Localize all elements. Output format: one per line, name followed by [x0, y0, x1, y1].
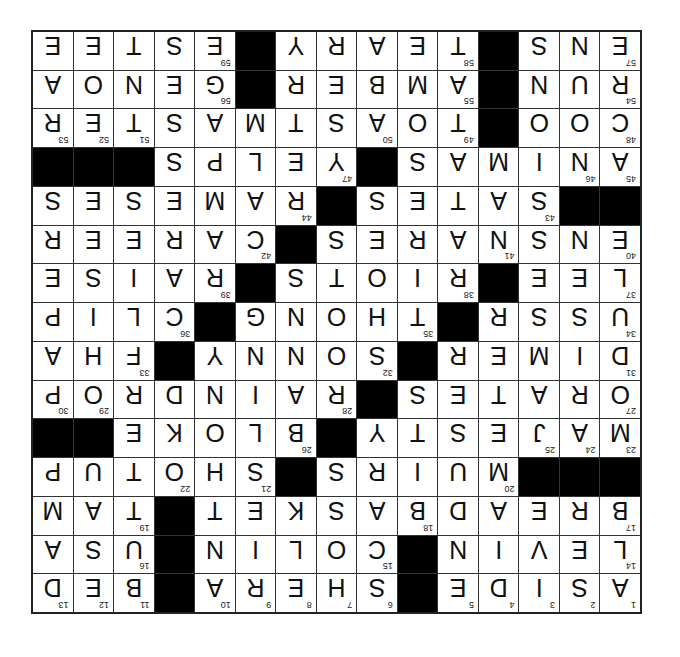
grid-cell[interactable]: I [398, 458, 438, 496]
grid-cell[interactable]: T [317, 264, 357, 302]
grid-cell[interactable]: E [74, 187, 114, 225]
grid-cell[interactable]: 51T [114, 109, 154, 147]
grid-cell[interactable]: M [519, 342, 559, 380]
grid-cell[interactable]: T [479, 381, 519, 419]
grid-cell[interactable]: L [276, 536, 316, 574]
grid-cell[interactable]: N [236, 342, 276, 380]
grid-cell[interactable]: N [195, 381, 235, 419]
grid-cell[interactable]: 31D [600, 342, 640, 380]
grid-cell[interactable]: 46N [560, 148, 600, 186]
grid-cell[interactable]: R [438, 342, 478, 380]
grid-cell[interactable]: 55A [438, 71, 478, 109]
grid-cell[interactable]: S [357, 187, 397, 225]
grid-cell[interactable]: S [33, 187, 73, 225]
grid-cell[interactable]: 12E [74, 574, 114, 612]
grid-cell[interactable]: E [438, 381, 478, 419]
grid-cell[interactable]: 2S [560, 574, 600, 612]
grid-cell[interactable]: S [560, 303, 600, 341]
grid-cell[interactable]: I [519, 148, 559, 186]
grid-cell[interactable]: S [155, 148, 195, 186]
grid-cell[interactable]: G [236, 303, 276, 341]
grid-cell[interactable]: E [560, 264, 600, 302]
grid-cell[interactable]: 35T [398, 303, 438, 341]
grid-cell[interactable]: 9R [236, 574, 276, 612]
grid-cell[interactable]: A [195, 109, 235, 147]
grid-cell[interactable]: 40E [600, 226, 640, 264]
grid-cell[interactable]: 20M [479, 458, 519, 496]
grid-cell[interactable]: T [276, 109, 316, 147]
grid-cell[interactable]: 17B [600, 497, 640, 535]
grid-cell[interactable]: E [398, 32, 438, 70]
grid-cell[interactable]: I [236, 381, 276, 419]
grid-cell[interactable]: A [479, 497, 519, 535]
grid-cell[interactable]: A [357, 32, 397, 70]
grid-cell[interactable]: A [276, 381, 316, 419]
grid-cell[interactable]: O [317, 303, 357, 341]
grid-cell[interactable]: V [519, 536, 559, 574]
grid-cell[interactable]: 48C [600, 109, 640, 147]
grid-cell[interactable]: E [479, 342, 519, 380]
grid-cell[interactable]: R [357, 458, 397, 496]
grid-cell[interactable]: S [398, 148, 438, 186]
grid-cell[interactable]: I [560, 342, 600, 380]
grid-cell[interactable]: I [398, 264, 438, 302]
grid-cell[interactable]: N [438, 536, 478, 574]
grid-cell[interactable]: E [33, 32, 73, 70]
grid-cell[interactable]: N [195, 536, 235, 574]
grid-cell[interactable]: E [317, 71, 357, 109]
grid-cell[interactable]: 43S [519, 187, 559, 225]
grid-cell[interactable]: E [519, 497, 559, 535]
grid-cell[interactable]: N [276, 342, 316, 380]
grid-cell[interactable]: O [519, 109, 559, 147]
grid-cell[interactable]: S [519, 303, 559, 341]
grid-cell[interactable]: 52E [74, 109, 114, 147]
grid-cell[interactable]: E [114, 419, 154, 457]
grid-cell[interactable]: S [114, 187, 154, 225]
grid-cell[interactable]: M [195, 187, 235, 225]
grid-cell[interactable]: E [74, 226, 114, 264]
grid-cell[interactable]: E [519, 264, 559, 302]
grid-cell[interactable]: S [74, 536, 114, 574]
grid-cell[interactable]: 42C [236, 226, 276, 264]
grid-cell[interactable]: L [236, 148, 276, 186]
grid-cell[interactable]: A [74, 497, 114, 535]
grid-cell[interactable]: 4D [479, 574, 519, 612]
grid-cell[interactable]: B [357, 71, 397, 109]
grid-cell[interactable]: T [398, 419, 438, 457]
grid-cell[interactable]: N [114, 71, 154, 109]
grid-cell[interactable]: I [236, 536, 276, 574]
grid-cell[interactable]: 28R [317, 381, 357, 419]
grid-cell[interactable]: 19T [114, 497, 154, 535]
grid-cell[interactable]: 3I [519, 574, 559, 612]
grid-cell[interactable]: M [479, 148, 519, 186]
grid-cell[interactable]: 58T [438, 32, 478, 70]
grid-cell[interactable]: 6S [357, 574, 397, 612]
grid-cell[interactable]: 57E [600, 32, 640, 70]
grid-cell[interactable]: K [155, 419, 195, 457]
grid-cell[interactable]: 56G [195, 71, 235, 109]
grid-cell[interactable]: L [236, 419, 276, 457]
grid-cell[interactable]: 14L [600, 536, 640, 574]
grid-cell[interactable]: Y [357, 419, 397, 457]
grid-cell[interactable]: E [357, 226, 397, 264]
grid-cell[interactable]: S [155, 109, 195, 147]
grid-cell[interactable]: S [317, 458, 357, 496]
grid-cell[interactable]: 29O [74, 381, 114, 419]
grid-cell[interactable]: 37L [600, 264, 640, 302]
grid-cell[interactable]: 7H [317, 574, 357, 612]
grid-cell[interactable]: 16U [114, 536, 154, 574]
grid-cell[interactable]: 21S [236, 458, 276, 496]
grid-cell[interactable]: S [74, 264, 114, 302]
grid-cell[interactable]: 54R [600, 71, 640, 109]
grid-cell[interactable]: S [155, 32, 195, 70]
grid-cell[interactable]: T [114, 32, 154, 70]
grid-cell[interactable]: A [357, 497, 397, 535]
grid-cell[interactable]: R [114, 381, 154, 419]
grid-cell[interactable]: S [317, 497, 357, 535]
grid-cell[interactable]: 24A [560, 419, 600, 457]
grid-cell[interactable]: K [276, 497, 316, 535]
grid-cell[interactable]: T [195, 497, 235, 535]
grid-cell[interactable]: I [74, 303, 114, 341]
grid-cell[interactable]: S [519, 226, 559, 264]
grid-cell[interactable]: 1A [600, 574, 640, 612]
